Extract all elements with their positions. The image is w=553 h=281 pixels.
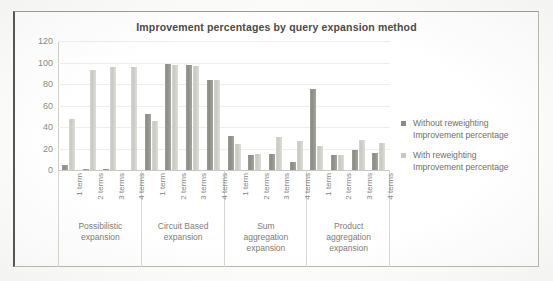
legend-item[interactable]: With reweightingImprovement percentage (401, 150, 539, 173)
group-label-line: Product (307, 221, 390, 232)
bar-cluster (269, 41, 290, 170)
bar-cluster (228, 41, 249, 170)
legend-swatch-icon (401, 153, 406, 158)
legend-label-line1: With reweighting (413, 150, 539, 162)
bar (186, 65, 192, 170)
category-tick-label: 3 terms (363, 172, 376, 220)
bar (372, 153, 378, 170)
category-tick-label: 2 terms (260, 172, 273, 220)
group-label: Sumaggregationexpansion (225, 221, 308, 254)
bar (297, 141, 303, 170)
bar (317, 146, 323, 170)
y-tick-label-0: 0 (48, 165, 53, 175)
bar (207, 80, 213, 170)
category-tick-label: 4 terms (135, 172, 148, 220)
bar (110, 67, 116, 170)
bar-cluster (83, 41, 104, 170)
category-tick-label: 3 terms (115, 172, 128, 220)
bar-cluster (310, 41, 331, 170)
bar (90, 70, 96, 170)
bar-cluster (352, 41, 373, 170)
y-tick-label-120: 120 (38, 36, 53, 46)
group-label-line: expansion (59, 232, 142, 243)
y-tick-label-60: 60 (43, 101, 53, 111)
group-label-line: aggregation (225, 232, 308, 243)
bar (214, 80, 220, 170)
y-tick-label-40: 40 (43, 122, 53, 132)
legend-label-line2: Improvement percentage (413, 162, 539, 174)
category-tick-label: 1 term (156, 172, 169, 220)
bar (152, 121, 158, 170)
bar (131, 67, 137, 170)
bar (310, 89, 316, 170)
y-tick-label-20: 20 (43, 144, 53, 154)
bar-cluster (186, 41, 207, 170)
group-label-line: aggregation (307, 232, 390, 243)
bar (359, 140, 365, 170)
category-tick-label: 1 term (239, 172, 252, 220)
legend-label-line2: Improvement percentage (413, 130, 539, 142)
category-tick-label: 1 term (73, 172, 86, 220)
bar (338, 155, 344, 170)
legend-swatch-icon (401, 121, 406, 126)
bar-group (142, 41, 225, 170)
category-tick-label: 1 term (322, 172, 335, 220)
category-tick-label: 2 terms (94, 172, 107, 220)
group-label: Productaggregationexpansion (307, 221, 390, 254)
scanned-figure-page: Improvement percentages by query expansi… (0, 0, 553, 281)
group-label-line: Circuit Based (142, 221, 225, 232)
category-tick-label: 2 terms (342, 172, 355, 220)
bar-group (225, 41, 308, 170)
group-label-line: expansion (142, 232, 225, 243)
bar-group (59, 41, 142, 170)
bar (248, 155, 254, 170)
category-tick-labels: 1 term2 terms3 terms4 terms1 term2 terms… (59, 172, 390, 220)
bar (228, 136, 234, 170)
bar (352, 150, 358, 170)
bar (165, 64, 171, 170)
group-label-line: expansion (307, 243, 390, 254)
bar (269, 154, 275, 170)
legend-label-line1: Without reweighting (413, 118, 539, 130)
bar-cluster (248, 41, 269, 170)
category-tick-label: 4 terms (218, 172, 231, 220)
bar-cluster (103, 41, 124, 170)
group-label-line: Sum (225, 221, 308, 232)
plot-area: 020406080100120 (58, 41, 390, 170)
category-tick-label: 3 terms (197, 172, 210, 220)
bar-group (307, 41, 390, 170)
group-labels: PossibilisticexpansionCircuit Basedexpan… (59, 221, 390, 267)
y-tick-label-100: 100 (38, 58, 53, 68)
bar-cluster (62, 41, 83, 170)
y-tick-label-80: 80 (43, 79, 53, 89)
bar (255, 154, 261, 170)
bar (145, 114, 151, 170)
group-label-line: Possibilistic (59, 221, 142, 232)
category-tick-label: 2 terms (177, 172, 190, 220)
category-tick-label: 4 terms (301, 172, 314, 220)
category-tick-label: 3 terms (280, 172, 293, 220)
bar-cluster (145, 41, 166, 170)
bar-cluster (372, 41, 393, 170)
chart-legend: Without reweightingImprovement percentag… (401, 118, 539, 182)
chart-title: Improvement percentages by query expansi… (15, 21, 538, 33)
bar (331, 155, 337, 170)
bar-cluster (165, 41, 186, 170)
bar (172, 65, 178, 170)
bar (290, 162, 296, 170)
bar (379, 143, 385, 170)
group-label-line: expansion (225, 243, 308, 254)
group-label: Possibilisticexpansion (59, 221, 142, 243)
bar-cluster (331, 41, 352, 170)
bar (193, 66, 199, 170)
bars-layer (59, 41, 390, 170)
group-label: Circuit Basedexpansion (142, 221, 225, 243)
bar (69, 119, 75, 170)
bar (276, 137, 282, 170)
category-tick-label: 4 terms (384, 172, 397, 220)
chart-frame: Improvement percentages by query expansi… (13, 11, 539, 267)
bar (235, 144, 241, 170)
legend-item[interactable]: Without reweightingImprovement percentag… (401, 118, 539, 141)
